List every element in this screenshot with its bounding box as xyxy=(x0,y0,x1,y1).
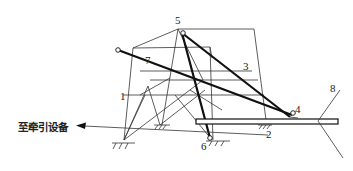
label-1: 1 xyxy=(120,90,126,102)
mechanism-diagram: 至牵引设备 5 7 3 1 4 8 2 6 xyxy=(0,0,353,171)
label-6: 6 xyxy=(201,140,207,152)
label-8: 8 xyxy=(330,82,336,94)
beam xyxy=(196,119,338,124)
joint-7 xyxy=(116,48,121,53)
joint-5 xyxy=(181,31,186,36)
label-4: 4 xyxy=(295,103,301,115)
label-2: 2 xyxy=(266,128,272,140)
label-5: 5 xyxy=(175,14,181,26)
label-7: 7 xyxy=(145,54,151,66)
joint-6 xyxy=(208,136,213,141)
traction-annotation: 至牵引设备 xyxy=(18,121,69,133)
label-3: 3 xyxy=(243,60,249,72)
arrow-head-icon xyxy=(76,123,86,130)
link-5-4 xyxy=(182,33,290,117)
